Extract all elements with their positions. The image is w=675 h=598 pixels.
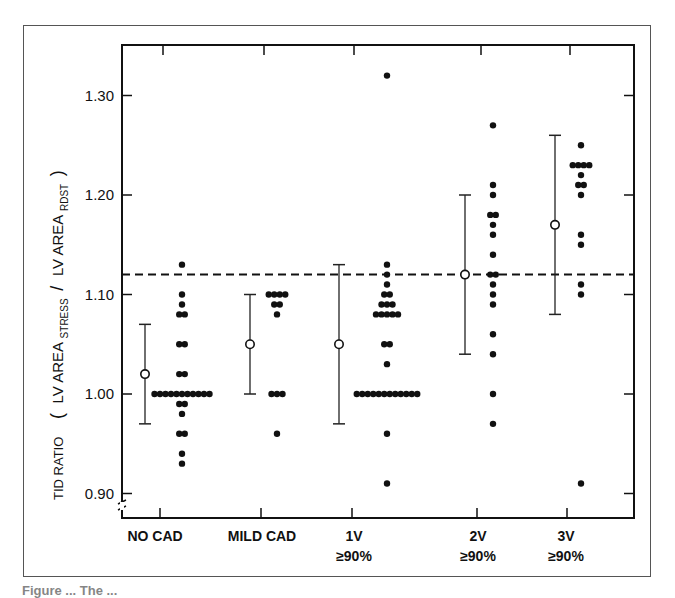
data-point [493, 271, 499, 277]
data-point [282, 291, 288, 297]
data-point [490, 331, 496, 337]
data-point [490, 281, 496, 287]
category-label-line2: ≥90% [548, 548, 584, 564]
data-point [403, 391, 409, 397]
ylabel-close-paren: ) [47, 170, 67, 176]
y-tick-label: 1.30 [85, 87, 114, 104]
data-point [277, 291, 283, 297]
data-point [179, 291, 185, 297]
data-point [586, 162, 592, 168]
data-point [266, 291, 272, 297]
data-point [176, 341, 182, 347]
data-point [490, 182, 496, 188]
category-label-line1: 3V [557, 528, 575, 544]
data-point [381, 341, 387, 347]
data-point [384, 311, 390, 317]
mean-open-circle [461, 270, 469, 278]
x-axis-ticks [160, 45, 570, 518]
data-point [578, 291, 584, 297]
data-point [268, 391, 274, 397]
data-point [389, 311, 395, 317]
data-point [373, 311, 379, 317]
data-point [182, 401, 188, 407]
data-point [176, 401, 182, 407]
svg-text:TID RATIO ( LV ARE: TID RATIO ( LV AREA STRESS / LV AREA RDS… [47, 170, 71, 500]
data-point [271, 291, 277, 297]
data-point [578, 281, 584, 287]
data-point [409, 391, 415, 397]
data-point [570, 162, 576, 168]
data-point [182, 311, 188, 317]
y-tick-label: 1.10 [85, 286, 114, 303]
data-point [201, 391, 207, 397]
data-point [387, 391, 393, 397]
data-point [179, 261, 185, 267]
data-point [179, 301, 185, 307]
data-point [384, 480, 390, 486]
data-point [378, 311, 384, 317]
data-point [578, 232, 584, 238]
data-point [578, 142, 584, 148]
data-point [274, 311, 280, 317]
ylabel-subscript-stress: STRESS [59, 298, 70, 338]
ylabel-slash: / [47, 286, 67, 291]
data-point [389, 301, 395, 307]
mean-error-bars [139, 135, 561, 424]
data-point [190, 391, 196, 397]
data-point [179, 391, 185, 397]
y-axis-label: TID RATIO ( LV AREA STRESS / LV AREA RDS… [47, 170, 71, 500]
figure-caption: Figure ... The ... [22, 583, 117, 598]
data-point [182, 431, 188, 437]
data-point [490, 232, 496, 238]
data-point [384, 261, 390, 267]
ylabel-main: TID RATIO [51, 437, 66, 500]
mean-open-circle [141, 370, 149, 378]
data-point [490, 301, 496, 307]
data-point [173, 391, 179, 397]
data-point [271, 301, 277, 307]
data-point [578, 480, 584, 486]
y-tick-label: 1.00 [85, 385, 114, 402]
data-point [575, 162, 581, 168]
category-labels: NO CADMILD CAD1V≥90%2V≥90%3V≥90% [127, 528, 584, 564]
data-point [206, 391, 212, 397]
data-point [490, 222, 496, 228]
data-point [274, 391, 280, 397]
ylabel-lv-area-2: LV AREA [49, 215, 66, 276]
data-point [179, 460, 185, 466]
data-point [354, 391, 360, 397]
ylabel-subscript-rdst: RDST [59, 184, 70, 211]
data-point [581, 182, 587, 188]
category-label-line1: NO CAD [127, 528, 182, 544]
data-point [490, 252, 496, 258]
data-point [168, 391, 174, 397]
data-point [195, 391, 201, 397]
data-point [487, 212, 493, 218]
category-label-line1: MILD CAD [228, 528, 296, 544]
data-point [490, 351, 496, 357]
data-point [277, 301, 283, 307]
y-tick-label: 0.90 [85, 485, 114, 502]
data-point [381, 291, 387, 297]
data-point [179, 411, 185, 417]
data-point [162, 391, 168, 397]
axis-break-gap [120, 502, 124, 510]
category-label-line2: ≥90% [460, 548, 496, 564]
data-point [490, 391, 496, 397]
category-label-line1: 2V [469, 528, 487, 544]
category-label-line1: 1V [345, 528, 363, 544]
y-tick-label: 1.20 [85, 186, 114, 203]
data-point [384, 281, 390, 287]
data-point [182, 341, 188, 347]
data-point [274, 431, 280, 437]
y-axis-ticks: 0.901.001.101.201.30 [85, 87, 634, 502]
mean-open-circle [335, 340, 343, 348]
ylabel-lv-area-1: LV AREA [49, 342, 66, 403]
data-point [370, 391, 376, 397]
data-point [578, 192, 584, 198]
data-point [387, 341, 393, 347]
category-label-line2: ≥90% [336, 548, 372, 564]
data-point [151, 391, 157, 397]
data-point [176, 431, 182, 437]
